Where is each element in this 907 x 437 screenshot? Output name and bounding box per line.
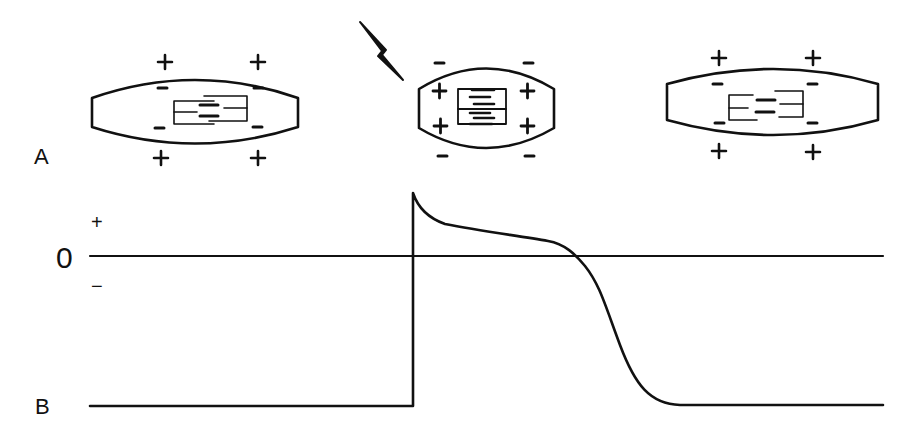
positive-sign-label: + xyxy=(91,212,103,232)
action-potential-trace xyxy=(90,193,883,406)
cell-depolarized xyxy=(419,63,554,156)
zero-axis-label: 0 xyxy=(56,243,73,273)
panel-label-a: A xyxy=(34,146,49,168)
panel-label-b: B xyxy=(35,396,50,418)
cell-resting xyxy=(92,55,298,165)
lightning-bolt-icon xyxy=(360,22,403,80)
negative-sign-label: − xyxy=(91,276,103,296)
diagram-canvas xyxy=(0,0,907,437)
cell-repolarized xyxy=(667,51,878,159)
